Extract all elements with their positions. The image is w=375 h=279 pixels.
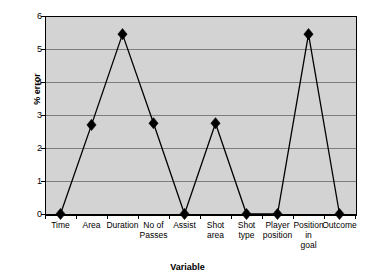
y-axis-tick-mark bbox=[41, 148, 45, 149]
chart-container: 0123456 % error TimeAreaDurationNo of Pa… bbox=[0, 0, 375, 279]
x-axis-tick-mark bbox=[200, 215, 201, 219]
data-point-marker bbox=[149, 118, 158, 129]
data-point-marker bbox=[180, 208, 189, 219]
x-axis-tick-mark bbox=[76, 215, 77, 219]
y-axis-tick-mark bbox=[41, 16, 45, 17]
data-point-marker bbox=[56, 208, 65, 219]
data-point-marker bbox=[304, 29, 313, 40]
x-axis-tick-mark bbox=[324, 215, 325, 219]
data-point-marker bbox=[273, 208, 282, 219]
data-point-marker bbox=[335, 208, 344, 219]
data-point-marker bbox=[211, 118, 220, 129]
x-axis-title: Variable bbox=[0, 262, 375, 272]
x-axis-tick-labels: TimeAreaDurationNo of PassesAssistShot a… bbox=[0, 220, 375, 266]
x-axis-tick-mark bbox=[355, 215, 356, 219]
data-point-marker bbox=[118, 29, 127, 40]
x-axis-tick-mark bbox=[107, 215, 108, 219]
data-line bbox=[61, 34, 340, 214]
x-axis-tick-mark bbox=[231, 215, 232, 219]
x-axis-tick-mark bbox=[138, 215, 139, 219]
data-point-marker bbox=[242, 208, 251, 219]
x-axis-tick-mark bbox=[45, 215, 46, 219]
x-axis-tick-mark bbox=[262, 215, 263, 219]
y-axis-tick-mark bbox=[41, 49, 45, 50]
x-axis-tick-label: Outcome bbox=[320, 220, 359, 230]
y-axis-tick-mark bbox=[41, 115, 45, 116]
data-point-marker bbox=[87, 119, 96, 130]
y-axis-tick-mark bbox=[41, 181, 45, 182]
x-axis-tick-mark bbox=[293, 215, 294, 219]
y-axis-tick-mark bbox=[41, 82, 45, 83]
x-axis-tick-mark bbox=[169, 215, 170, 219]
